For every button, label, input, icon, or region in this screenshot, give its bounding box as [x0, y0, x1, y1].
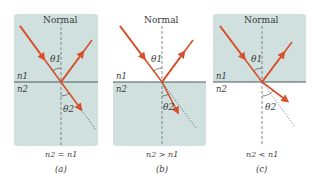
panel-caption: (c) [256, 164, 267, 174]
panel-a: Normal n1 n2 θ1 θ2 n2 = n1 (a) [14, 14, 98, 174]
index-relation: n2 = n1 [45, 150, 77, 159]
panel-caption: (b) [156, 164, 168, 174]
lower-medium-top-fill [113, 82, 206, 88]
theta2-arc [262, 90, 273, 96]
n2-label: n2 [216, 84, 227, 94]
n2-label: n2 [17, 84, 28, 94]
index-relation: n2 < n1 [246, 150, 278, 159]
normal-label: Normal [43, 15, 77, 25]
theta2-label: θ2 [63, 104, 74, 114]
theta1-label: θ1 [251, 54, 262, 64]
theta2-label: θ2 [265, 102, 276, 112]
panel-b: Normal n1 n2 θ1 θ2 n2 > n1 (b) [113, 15, 206, 174]
n1-label: n1 [17, 71, 28, 81]
lower-medium-region [113, 82, 206, 146]
index-relation: n2 > n1 [146, 150, 178, 159]
n2-label: n2 [116, 84, 127, 94]
refraction-diagram: Normal n1 n2 θ1 θ2 n2 = n1 (a) Normal n1… [0, 0, 314, 179]
incident-arrow [120, 26, 144, 57]
normal-label: Normal [144, 15, 178, 25]
normal-label: Normal [244, 15, 278, 25]
panel-caption: (a) [55, 164, 67, 174]
theta1-arc [154, 68, 162, 71]
refracted-ray [262, 82, 286, 100]
n1-label: n1 [216, 71, 227, 81]
theta1-label: θ1 [50, 54, 61, 64]
n1-label: n1 [116, 71, 127, 81]
theta2-label: θ2 [163, 102, 174, 112]
panel-c: Normal n1 n2 θ1 θ2 n2 < n1 (c) [213, 14, 306, 174]
reflected-arrow [162, 54, 183, 83]
theta1-label: θ1 [151, 54, 162, 64]
